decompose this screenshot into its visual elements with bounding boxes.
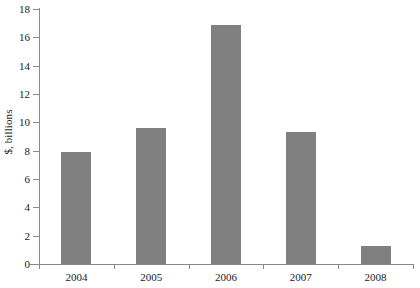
x-axis-tick-label: 2004 (46, 271, 106, 283)
x-axis-tick (413, 264, 414, 269)
y-axis-tick (33, 9, 39, 10)
x-axis-tick (189, 264, 190, 269)
x-axis-tick-label: 2006 (196, 271, 256, 283)
bar-2004 (61, 152, 91, 264)
x-axis-tick-label: 2007 (271, 271, 331, 283)
y-axis-tick (33, 236, 39, 237)
y-axis-tick (33, 66, 39, 67)
y-axis-tick (33, 207, 39, 208)
y-axis-tick-label: 16 (0, 32, 30, 43)
x-axis-tick (263, 264, 264, 269)
y-axis-tick (33, 179, 39, 180)
bar-2005 (136, 128, 166, 264)
y-axis-tick-label: 14 (0, 60, 30, 71)
bar-2008 (361, 246, 391, 264)
bar-2006 (211, 25, 241, 264)
y-axis-tick-label: 10 (0, 117, 30, 128)
y-axis-tick-label: 4 (0, 202, 30, 213)
y-axis-line (39, 8, 40, 265)
y-axis-tick (33, 37, 39, 38)
bar-chart: $, billions 024681012141618 200420052006… (0, 0, 420, 288)
x-axis-tick (114, 264, 115, 269)
x-axis-tick (39, 264, 40, 269)
y-axis-tick-label: 6 (0, 174, 30, 185)
x-axis-tick (338, 264, 339, 269)
y-axis-tick-label: 8 (0, 145, 30, 156)
y-axis-tick-label: 0 (0, 259, 30, 270)
y-axis-tick-label: 18 (0, 4, 30, 15)
y-axis-tick (33, 122, 39, 123)
x-axis-line (30, 264, 413, 265)
y-axis-tick-label: 12 (0, 89, 30, 100)
bar-2007 (286, 132, 316, 264)
y-axis-tick (33, 151, 39, 152)
x-axis-tick-label: 2008 (346, 271, 406, 283)
y-axis-tick-label: 2 (0, 230, 30, 241)
y-axis-tick (33, 94, 39, 95)
x-axis-tick-label: 2005 (121, 271, 181, 283)
